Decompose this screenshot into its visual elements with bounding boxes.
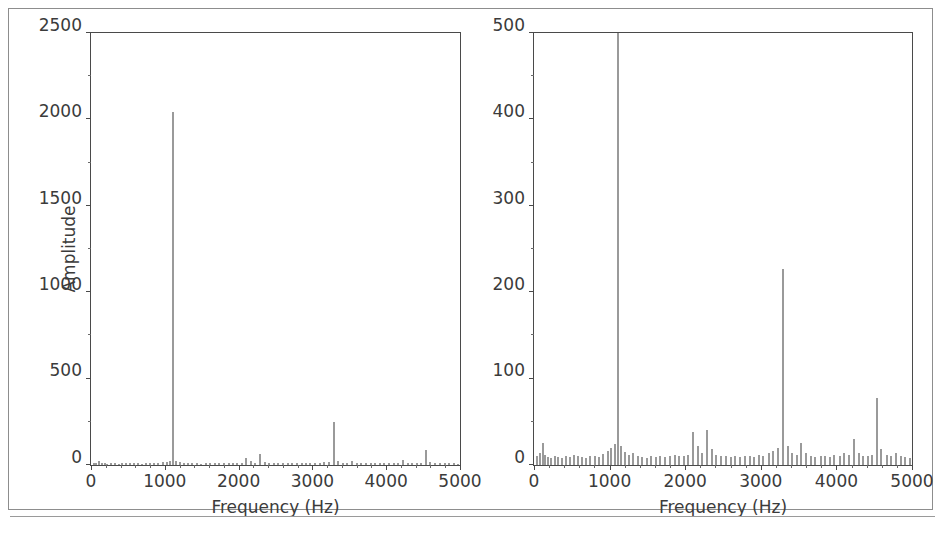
spectrum-bar xyxy=(333,422,335,465)
y-axis-minor-tick xyxy=(531,334,534,335)
x-axis-minor-tick xyxy=(180,465,181,468)
y-axis-minor-tick xyxy=(531,162,534,163)
spectrum-bar xyxy=(720,456,722,465)
spectrum-bar xyxy=(871,455,873,465)
x-axis-tick xyxy=(836,465,837,470)
spectrum-bar xyxy=(434,463,436,465)
x-axis-minor-tick xyxy=(640,465,641,468)
spectrum-bar xyxy=(245,458,247,465)
x-axis-minor-tick xyxy=(594,465,595,468)
spectrum-bar xyxy=(725,456,727,466)
x-axis-minor-tick xyxy=(852,465,853,468)
spectrum-bar xyxy=(833,455,835,465)
x-axis-minor-tick xyxy=(655,465,656,468)
spectrum-bar xyxy=(145,463,147,465)
x-axis-tick-label: 1000 xyxy=(588,473,631,490)
x-axis-minor-tick xyxy=(821,465,822,468)
spectrum-bar xyxy=(805,453,807,465)
spectrum-bar xyxy=(839,456,841,465)
y-axis-tick xyxy=(86,378,91,379)
spectrum-bar xyxy=(407,463,409,465)
x-axis-minor-tick xyxy=(806,465,807,468)
x-axis-minor-tick xyxy=(342,465,343,468)
plot-area-left: 0500100015002000250001000200030004000500… xyxy=(90,32,461,466)
spectrum-bar xyxy=(402,460,404,465)
spectrum-bar xyxy=(273,463,275,465)
spectrum-bar xyxy=(573,455,575,465)
spectrum-bar xyxy=(909,458,911,465)
spectrum-bar xyxy=(351,461,353,465)
spectrum-bar xyxy=(594,456,596,465)
spectrum-bar xyxy=(241,463,243,465)
spectrum-bar xyxy=(172,112,174,465)
x-axis-tick xyxy=(312,465,313,470)
spectrum-bar xyxy=(162,462,164,465)
spectrum-bar xyxy=(800,443,802,465)
spectrum-bar xyxy=(715,455,717,465)
x-axis-tick-label: 4000 xyxy=(365,473,408,490)
spectrum-bar xyxy=(820,456,822,466)
spectrum-bar xyxy=(858,453,860,465)
spectrum-bar xyxy=(360,463,362,465)
spectrum-bar xyxy=(175,461,177,465)
x-axis-tick xyxy=(91,465,92,470)
chart-panel-left: 0500100015002000250001000200030004000500… xyxy=(9,9,471,511)
spectrum-bar xyxy=(814,457,816,465)
spectrum-bars-right xyxy=(534,33,912,465)
y-axis-minor-tick xyxy=(88,421,91,422)
x-axis-minor-tick xyxy=(298,465,299,468)
spectrum-bar xyxy=(388,463,390,465)
y-axis-tick-label: 500 xyxy=(493,16,525,33)
spectrum-bar xyxy=(610,448,612,465)
spectrum-bar xyxy=(457,464,459,465)
spectrum-bar xyxy=(853,439,855,465)
x-axis-minor-tick xyxy=(121,465,122,468)
spectrum-bar xyxy=(383,463,385,465)
x-axis-minor-tick xyxy=(194,465,195,468)
x-axis-minor-tick xyxy=(670,465,671,468)
y-axis-tick-label: 0 xyxy=(71,448,82,465)
spectrum-bar xyxy=(118,464,120,465)
spectrum-bar xyxy=(749,456,751,465)
x-axis-tick-label: 0 xyxy=(529,473,540,490)
spectrum-bar xyxy=(768,453,770,465)
spectrum-bar xyxy=(678,456,680,466)
y-axis-minor-tick xyxy=(88,75,91,76)
spectrum-bar xyxy=(796,455,798,465)
x-axis-label-left: Frequency (Hz) xyxy=(211,497,339,517)
spectrum-bar xyxy=(439,463,441,465)
x-axis-tick xyxy=(912,465,913,470)
spectrum-bar xyxy=(328,462,330,465)
y-axis-minor-tick xyxy=(531,248,534,249)
x-axis-minor-tick xyxy=(430,465,431,468)
x-axis-minor-tick xyxy=(268,465,269,468)
y-axis-minor-tick xyxy=(88,248,91,249)
spectrum-bar xyxy=(425,450,427,465)
x-axis-tick xyxy=(685,465,686,470)
spectrum-bar xyxy=(205,463,207,465)
spectrum-bar xyxy=(550,458,552,465)
x-axis-tick-label: 2000 xyxy=(664,473,707,490)
spectrum-bar xyxy=(753,457,755,465)
y-axis-label-left: Amplitude xyxy=(59,205,79,292)
x-axis-tick-label: 2000 xyxy=(217,473,260,490)
spectrum-bar xyxy=(169,461,171,465)
spectrum-bar xyxy=(607,451,609,465)
spectrum-bar xyxy=(706,430,708,465)
spectrum-bar xyxy=(137,463,139,465)
spectrum-bar xyxy=(106,464,108,465)
spectrum-bar xyxy=(711,449,713,465)
chart-panel-right: 0100200300400500010002000300040005000 Fr… xyxy=(471,9,934,511)
spectrum-bar xyxy=(561,458,563,465)
spectrum-bar xyxy=(692,432,694,465)
spectrum-bar xyxy=(166,462,168,465)
spectrum-bar xyxy=(904,457,906,465)
spectrum-bar xyxy=(114,463,116,465)
spectrum-bar xyxy=(900,456,902,466)
y-axis-tick xyxy=(86,205,91,206)
spectrum-bar xyxy=(365,463,367,465)
spectrum-bar xyxy=(141,464,143,465)
spectrum-bar xyxy=(646,458,648,465)
spectrum-bar xyxy=(218,463,220,465)
spectrum-bar xyxy=(397,463,399,465)
